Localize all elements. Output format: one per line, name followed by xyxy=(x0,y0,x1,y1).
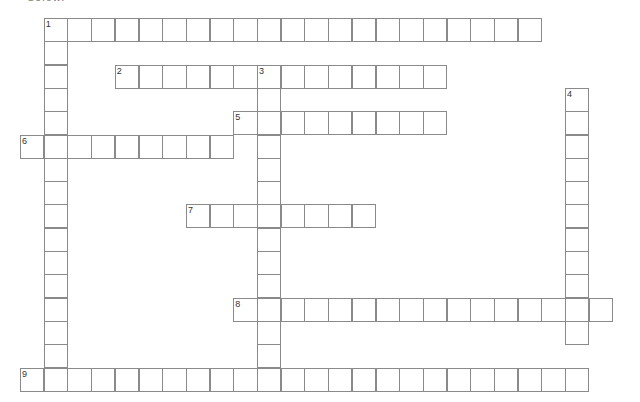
crossword-cell[interactable] xyxy=(565,204,589,228)
crossword-cell[interactable] xyxy=(328,65,352,89)
crossword-cell[interactable] xyxy=(565,181,589,205)
crossword-cell[interactable] xyxy=(565,111,589,135)
crossword-cell[interactable] xyxy=(281,65,305,89)
crossword-cell[interactable] xyxy=(376,298,400,322)
crossword-cell[interactable] xyxy=(233,368,257,392)
crossword-cell[interactable] xyxy=(257,88,281,112)
crossword-cell[interactable] xyxy=(139,18,163,42)
crossword-cell[interactable] xyxy=(67,18,91,42)
crossword-cell[interactable] xyxy=(565,251,589,275)
crossword-cell[interactable]: 8 xyxy=(233,298,257,322)
crossword-cell[interactable] xyxy=(257,251,281,275)
crossword-cell[interactable] xyxy=(210,204,234,228)
crossword-cell[interactable] xyxy=(115,135,139,159)
crossword-cell[interactable] xyxy=(257,158,281,182)
crossword-cell[interactable] xyxy=(352,368,376,392)
crossword-cell[interactable] xyxy=(139,135,163,159)
crossword-cell[interactable] xyxy=(44,158,68,182)
crossword-cell[interactable] xyxy=(518,298,542,322)
crossword-cell[interactable] xyxy=(44,274,68,298)
crossword-cell[interactable] xyxy=(139,65,163,89)
crossword-cell[interactable] xyxy=(281,298,305,322)
crossword-cell[interactable] xyxy=(44,181,68,205)
crossword-cell[interactable] xyxy=(470,368,494,392)
crossword-cell[interactable] xyxy=(399,298,423,322)
crossword-cell[interactable] xyxy=(257,321,281,345)
crossword-cell[interactable] xyxy=(399,111,423,135)
crossword-cell[interactable] xyxy=(210,135,234,159)
crossword-cell[interactable] xyxy=(44,111,68,135)
crossword-cell[interactable] xyxy=(376,65,400,89)
crossword-cell[interactable] xyxy=(447,298,471,322)
crossword-cell[interactable] xyxy=(44,251,68,275)
crossword-cell[interactable] xyxy=(44,135,68,159)
crossword-cell[interactable] xyxy=(186,135,210,159)
crossword-cell[interactable] xyxy=(470,18,494,42)
crossword-cell[interactable] xyxy=(589,298,613,322)
crossword-cell[interactable] xyxy=(304,111,328,135)
crossword-cell[interactable] xyxy=(494,368,518,392)
crossword-cell[interactable] xyxy=(423,65,447,89)
crossword-cell[interactable] xyxy=(281,204,305,228)
crossword-cell[interactable] xyxy=(257,181,281,205)
crossword-cell[interactable] xyxy=(257,18,281,42)
crossword-cell[interactable] xyxy=(304,204,328,228)
crossword-cell[interactable] xyxy=(115,368,139,392)
crossword-cell[interactable] xyxy=(376,368,400,392)
crossword-cell[interactable] xyxy=(162,18,186,42)
crossword-cell[interactable] xyxy=(257,344,281,368)
crossword-cell[interactable] xyxy=(352,298,376,322)
crossword-cell[interactable] xyxy=(565,321,589,345)
crossword-cell[interactable] xyxy=(257,135,281,159)
crossword-cell[interactable] xyxy=(44,41,68,65)
crossword-cell[interactable] xyxy=(565,274,589,298)
crossword-cell[interactable] xyxy=(233,18,257,42)
crossword-cell[interactable] xyxy=(257,228,281,252)
crossword-cell[interactable] xyxy=(352,204,376,228)
crossword-cell[interactable] xyxy=(447,368,471,392)
crossword-cell[interactable] xyxy=(257,204,281,228)
crossword-cell[interactable]: 1 xyxy=(44,18,68,42)
crossword-cell[interactable] xyxy=(44,88,68,112)
crossword-cell[interactable] xyxy=(44,321,68,345)
crossword-cell[interactable] xyxy=(44,298,68,322)
crossword-cell[interactable] xyxy=(91,135,115,159)
crossword-cell[interactable] xyxy=(565,228,589,252)
crossword-cell[interactable] xyxy=(186,368,210,392)
crossword-cell[interactable] xyxy=(328,298,352,322)
crossword-cell[interactable] xyxy=(281,111,305,135)
crossword-cell[interactable] xyxy=(139,368,163,392)
crossword-cell[interactable] xyxy=(257,298,281,322)
crossword-cell[interactable] xyxy=(518,18,542,42)
crossword-cell[interactable] xyxy=(518,368,542,392)
crossword-cell[interactable] xyxy=(257,274,281,298)
crossword-cell[interactable] xyxy=(399,368,423,392)
crossword-cell[interactable] xyxy=(304,368,328,392)
crossword-cell[interactable] xyxy=(541,368,565,392)
crossword-cell[interactable] xyxy=(44,65,68,89)
crossword-cell[interactable]: 3 xyxy=(257,65,281,89)
crossword-cell[interactable] xyxy=(423,298,447,322)
crossword-cell[interactable] xyxy=(423,111,447,135)
crossword-cell[interactable] xyxy=(352,18,376,42)
crossword-cell[interactable] xyxy=(44,368,68,392)
crossword-cell[interactable] xyxy=(494,298,518,322)
crossword-cell[interactable] xyxy=(115,18,139,42)
crossword-cell[interactable] xyxy=(304,65,328,89)
crossword-cell[interactable] xyxy=(162,368,186,392)
crossword-cell[interactable] xyxy=(352,65,376,89)
crossword-cell[interactable] xyxy=(447,18,471,42)
crossword-cell[interactable] xyxy=(376,18,400,42)
crossword-cell[interactable] xyxy=(91,18,115,42)
crossword-cell[interactable] xyxy=(91,368,115,392)
crossword-cell[interactable] xyxy=(565,298,589,322)
crossword-cell[interactable] xyxy=(210,65,234,89)
crossword-cell[interactable] xyxy=(565,368,589,392)
crossword-cell[interactable]: 4 xyxy=(565,88,589,112)
crossword-cell[interactable] xyxy=(328,368,352,392)
crossword-cell[interactable] xyxy=(423,18,447,42)
crossword-cell[interactable] xyxy=(210,18,234,42)
crossword-cell[interactable] xyxy=(186,18,210,42)
crossword-cell[interactable] xyxy=(376,111,400,135)
crossword-cell[interactable] xyxy=(44,344,68,368)
